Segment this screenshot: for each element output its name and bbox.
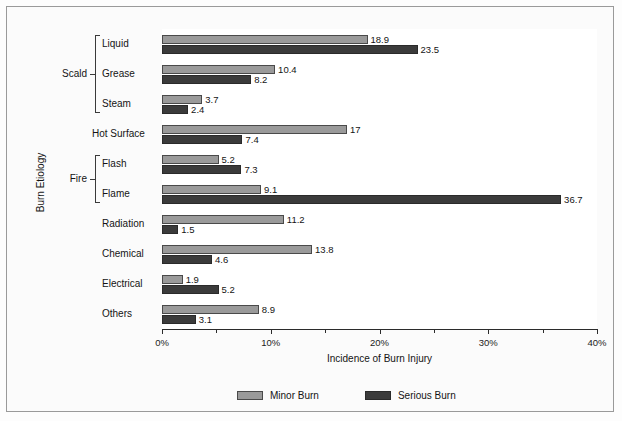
legend-swatch-minor <box>237 391 263 400</box>
chart-frame: Burn Etiology ScaldFire LiquidGreaseStea… <box>6 6 614 412</box>
x-tick-minor <box>216 329 217 333</box>
bar-steam-serious-burn <box>162 105 188 114</box>
x-tick-label: 30% <box>479 337 498 348</box>
category-label-hot-surface: Hot Surface <box>92 128 147 139</box>
bar-value-label: 8.9 <box>262 305 275 314</box>
bar-radiation-minor-burn <box>162 215 284 224</box>
x-tick-major <box>380 329 381 334</box>
bar-value-label: 10.4 <box>278 65 297 74</box>
group-label-fire: Fire <box>45 173 87 184</box>
bar-value-label: 17 <box>350 125 361 134</box>
chart-legend: Minor BurnSerious Burn <box>237 390 456 401</box>
bar-value-label: 7.3 <box>244 165 257 174</box>
bar-value-label: 4.6 <box>215 255 228 264</box>
bar-value-label: 23.5 <box>421 45 440 54</box>
bar-value-label: 8.2 <box>254 75 267 84</box>
legend-item-minor-burn[interactable]: Minor Burn <box>237 390 319 401</box>
legend-swatch-serious <box>365 391 391 400</box>
x-tick-minor <box>434 329 435 333</box>
bar-value-label: 36.7 <box>564 195 583 204</box>
bracket-stem <box>95 35 96 113</box>
bar-flash-minor-burn <box>162 155 219 164</box>
group-label-scald: Scald <box>45 68 87 79</box>
category-label-steam: Steam <box>102 98 157 109</box>
chart-figure: Burn Etiology ScaldFire LiquidGreaseStea… <box>0 0 622 421</box>
bar-grease-minor-burn <box>162 65 275 74</box>
bar-others-minor-burn <box>162 305 259 314</box>
bar-value-label: 5.2 <box>222 155 235 164</box>
x-tick-major <box>271 329 272 334</box>
bar-value-label: 2.4 <box>191 105 204 114</box>
plot-area: 18.923.510.48.23.72.4177.45.27.39.136.71… <box>162 29 597 329</box>
bar-others-serious-burn <box>162 315 196 324</box>
bar-hot-surface-serious-burn <box>162 135 242 144</box>
bar-value-label: 3.1 <box>199 315 212 324</box>
bar-value-label: 18.9 <box>371 35 390 44</box>
bar-liquid-serious-burn <box>162 45 418 54</box>
bracket-cap-bottom <box>95 202 100 203</box>
x-tick-major <box>488 329 489 334</box>
bar-flame-minor-burn <box>162 185 261 194</box>
category-label-liquid: Liquid <box>102 38 157 49</box>
category-label-chemical: Chemical <box>102 248 157 259</box>
x-tick-major <box>597 329 598 334</box>
bracket-stem <box>95 155 96 203</box>
x-tick-minor <box>543 329 544 333</box>
bracket-cap-top <box>95 35 100 36</box>
category-label-grease: Grease <box>102 68 157 79</box>
category-label-flame: Flame <box>102 188 157 199</box>
bar-value-label: 3.7 <box>205 95 218 104</box>
x-axis-title: Incidence of Burn Injury <box>162 353 597 364</box>
category-label-radiation: Radiation <box>102 218 157 229</box>
bracket-nub <box>90 179 95 180</box>
bracket-nub <box>90 74 95 75</box>
x-tick-label: 10% <box>261 337 280 348</box>
x-tick-label: 20% <box>370 337 389 348</box>
bracket-cap-top <box>95 155 100 156</box>
bar-electrical-serious-burn <box>162 285 219 294</box>
bar-value-label: 13.8 <box>315 245 334 254</box>
bar-steam-minor-burn <box>162 95 202 104</box>
x-tick-label: 0% <box>155 337 169 348</box>
bar-value-label: 11.2 <box>287 215 305 224</box>
bar-chemical-serious-burn <box>162 255 212 264</box>
bar-flame-serious-burn <box>162 195 561 204</box>
bracket-cap-bottom <box>95 112 100 113</box>
group-bracket-fire <box>89 155 101 203</box>
bar-value-label: 9.1 <box>264 185 277 194</box>
x-tick-minor <box>325 329 326 333</box>
bar-electrical-minor-burn <box>162 275 183 284</box>
bar-radiation-serious-burn <box>162 225 178 234</box>
bar-flash-serious-burn <box>162 165 241 174</box>
bar-liquid-minor-burn <box>162 35 368 44</box>
bar-value-label: 1.5 <box>181 225 194 234</box>
bar-grease-serious-burn <box>162 75 251 84</box>
x-tick-major <box>162 329 163 334</box>
group-bracket-scald <box>89 35 101 113</box>
x-tick-label: 40% <box>587 337 606 348</box>
bar-hot-surface-minor-burn <box>162 125 347 134</box>
legend-item-serious-burn[interactable]: Serious Burn <box>365 390 456 401</box>
bar-value-label: 7.4 <box>245 135 258 144</box>
category-label-flash: Flash <box>102 158 157 169</box>
legend-label: Minor Burn <box>270 390 319 401</box>
legend-label: Serious Burn <box>398 390 456 401</box>
bar-value-label: 5.2 <box>222 285 235 294</box>
category-label-others: Others <box>102 308 157 319</box>
bar-chemical-minor-burn <box>162 245 312 254</box>
category-label-electrical: Electrical <box>102 278 157 289</box>
bar-value-label: 1.9 <box>186 275 199 284</box>
